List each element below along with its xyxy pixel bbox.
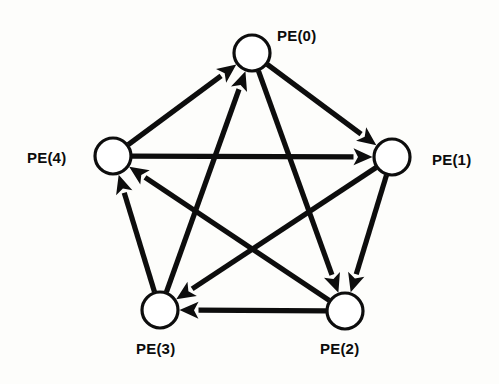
- node-pe0[interactable]: [234, 35, 270, 71]
- edge-shaft: [199, 310, 327, 311]
- arrow-head: [348, 272, 364, 293]
- node-label-pe0: PE(0): [277, 28, 316, 43]
- edge-pe2-to-pe3: [180, 302, 327, 319]
- edge-pe1-to-pe2: [348, 175, 386, 292]
- arrow-head: [324, 272, 340, 293]
- edge-shaft: [166, 89, 239, 292]
- pe-interconnection-diagram: PE(0) PE(1) PE(2) PE(3) PE(4): [0, 0, 499, 384]
- node-label-pe2: PE(2): [320, 341, 359, 356]
- arrow-head: [116, 175, 132, 196]
- nodes-layer: [95, 35, 410, 329]
- node-pe2[interactable]: [327, 293, 363, 329]
- node-label-pe3: PE(3): [136, 341, 175, 356]
- node-pe3[interactable]: [142, 292, 178, 328]
- node-pe4[interactable]: [95, 138, 131, 174]
- node-label-pe1: PE(1): [432, 152, 471, 167]
- graph-canvas: [0, 0, 499, 384]
- edge-shaft: [267, 64, 361, 134]
- edge-shaft: [128, 76, 221, 145]
- arrow-head: [180, 302, 199, 319]
- node-label-pe4: PE(4): [27, 150, 66, 165]
- arrow-head: [231, 71, 247, 92]
- edges-layer: [116, 64, 386, 318]
- edge-pe4-to-pe0: [128, 65, 236, 145]
- node-pe1[interactable]: [374, 139, 410, 175]
- arrow-head: [353, 148, 372, 165]
- edge-shaft: [356, 175, 386, 274]
- edge-shaft: [124, 193, 154, 292]
- edge-pe4-to-pe1: [132, 148, 373, 165]
- edge-pe3-to-pe4: [116, 175, 154, 292]
- edge-shaft: [132, 156, 354, 157]
